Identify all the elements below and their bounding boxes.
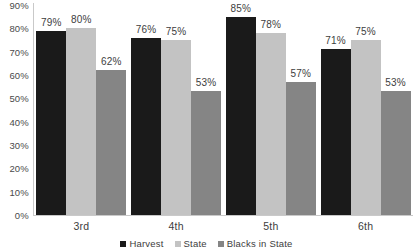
y-axis-tick-label: 20% xyxy=(9,163,29,174)
legend-label: Harvest xyxy=(129,238,163,249)
x-axis-category-label: 3rd xyxy=(34,220,129,232)
bar xyxy=(191,91,221,215)
y-axis-tick-label: 90% xyxy=(9,0,29,11)
bar xyxy=(381,91,411,215)
legend-label: State xyxy=(184,238,207,249)
x-axis-category-label: 4th xyxy=(129,220,224,232)
legend-swatch-icon xyxy=(175,241,181,247)
bar-value-label: 75% xyxy=(157,26,195,37)
x-axis-line xyxy=(33,215,413,216)
bar xyxy=(256,33,286,215)
y-axis-tick-label: 30% xyxy=(9,140,29,151)
bar xyxy=(226,17,256,215)
x-axis-category-label: 6th xyxy=(318,220,413,232)
y-axis-tick-label: 0% xyxy=(15,210,29,221)
legend-item[interactable]: Harvest xyxy=(120,238,163,249)
bar-value-label: 78% xyxy=(252,19,290,30)
bar-chart: g 0%10%20%30%40%50%60%70%80%90% 79%80%62… xyxy=(0,0,413,251)
bar-value-label: 85% xyxy=(222,3,260,14)
legend-item[interactable]: State xyxy=(175,238,207,249)
y-axis-tick-label: 50% xyxy=(9,93,29,104)
bar xyxy=(131,38,161,215)
plot-area: 79%80%62%76%75%53%85%78%57%71%75%53% xyxy=(34,0,413,215)
bar xyxy=(321,49,351,215)
y-axis-tick-label: 70% xyxy=(9,46,29,57)
legend-swatch-icon xyxy=(218,241,224,247)
bar xyxy=(36,31,66,215)
bar-value-label: 57% xyxy=(282,68,320,79)
y-axis: 0%10%20%30%40%50%60%70%80%90% xyxy=(0,0,31,222)
bar xyxy=(96,70,126,215)
y-axis-tick-label: 60% xyxy=(9,70,29,81)
bar-value-label: 62% xyxy=(92,56,130,67)
bar-value-label: 75% xyxy=(347,26,385,37)
bar xyxy=(351,40,381,215)
y-axis-tick-label: 40% xyxy=(9,116,29,127)
x-axis-category-label: 5th xyxy=(224,220,319,232)
y-axis-tick-label: 80% xyxy=(9,23,29,34)
bar xyxy=(286,82,316,215)
legend-item[interactable]: Blacks in State xyxy=(218,238,293,249)
bar-value-label: 53% xyxy=(377,77,413,88)
bar-value-label: 80% xyxy=(62,14,100,25)
y-axis-tick-label: 10% xyxy=(9,186,29,197)
legend-label: Blacks in State xyxy=(227,238,293,249)
chart-legend: HarvestStateBlacks in State xyxy=(0,238,413,249)
bar xyxy=(161,40,191,215)
bar-value-label: 53% xyxy=(187,77,225,88)
legend-swatch-icon xyxy=(120,241,126,247)
